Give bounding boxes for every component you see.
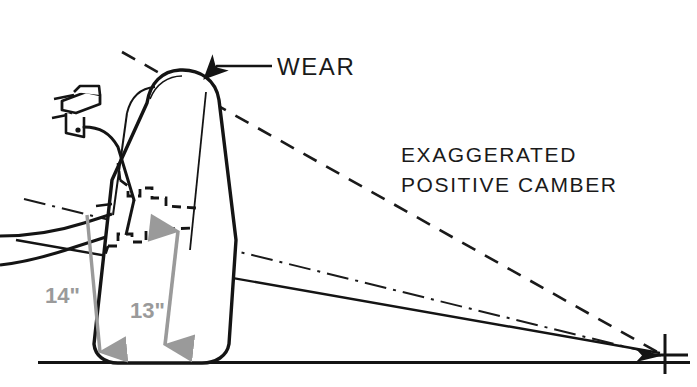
tilted-tire-outline (94, 70, 236, 363)
dimension-label-14in: 14" (45, 283, 80, 308)
camber-label-line2: POSITIVE CAMBER (401, 173, 618, 196)
camber-label-line1: EXAGGERATED (401, 143, 577, 166)
dimension-arrow-14in (87, 215, 100, 352)
wear-leader-line (205, 66, 272, 78)
diagram-canvas: 14" 13" WEAR EXAGGERATED POSITIVE CAMBER (0, 0, 697, 387)
crosshair-vanishing-point (636, 334, 688, 374)
wear-label: WEAR (277, 53, 355, 80)
dimension-label-13in: 13" (130, 298, 165, 323)
camber-diagram: 14" 13" WEAR EXAGGERATED POSITIVE CAMBER (0, 0, 697, 387)
